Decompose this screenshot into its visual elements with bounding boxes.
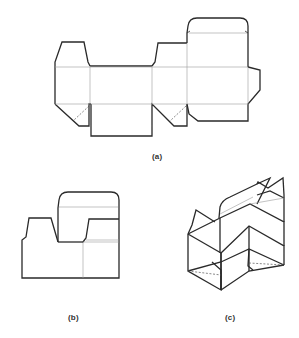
base-panels — [22, 242, 119, 278]
folded-view-b — [22, 192, 119, 278]
glue-flap — [187, 67, 260, 121]
panel-label-b: (b) — [68, 313, 79, 322]
panel-label-a: (a) — [152, 152, 162, 161]
right-dust-flap — [152, 43, 187, 66]
carton-diagram — [0, 0, 299, 338]
bottom-dust-flap-left — [55, 104, 91, 126]
dieline-a — [55, 18, 260, 136]
tuck-flap — [187, 18, 248, 67]
isometric-view-c — [188, 178, 284, 290]
panel-label-c: (c) — [225, 313, 235, 322]
left-dust-flap — [55, 42, 90, 104]
bottom-dust-flap-right — [91, 104, 187, 136]
